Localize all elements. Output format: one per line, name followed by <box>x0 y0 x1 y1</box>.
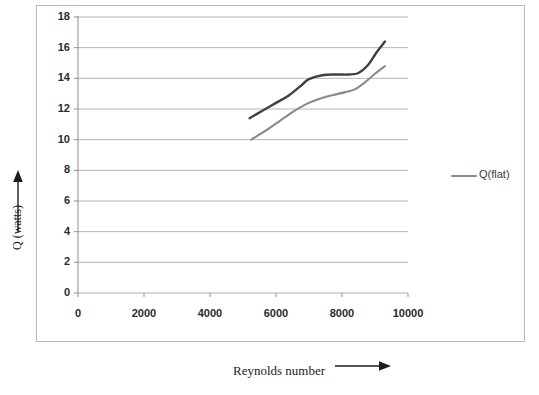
y-axis-tick-label: 18 <box>38 10 70 22</box>
y-axis-tick-label: 2 <box>38 255 70 267</box>
x-axis-tick-label: 4000 <box>180 307 240 319</box>
x-axis-tick-label: 0 <box>48 307 108 319</box>
x-axis-tick-label: 8000 <box>312 307 372 319</box>
y-tick-marks-group <box>74 17 78 293</box>
y-axis-tick-label: 10 <box>38 133 70 145</box>
y-axis-tick-label: 16 <box>38 41 70 53</box>
x-axis-title: Reynolds number <box>233 363 325 379</box>
chart-figure: 024681012141618 0200040006000800010000 Q… <box>0 0 539 395</box>
y-axis-title: Q (watts) <box>10 205 25 250</box>
y-axis-tick-label: 14 <box>38 71 70 83</box>
series-paths-group <box>250 42 385 140</box>
y-axis-tick-label: 6 <box>38 194 70 206</box>
y-axis-tick-label: 8 <box>38 163 70 175</box>
y-axis-tick-label: 4 <box>38 225 70 237</box>
x-axis-tick-label: 6000 <box>246 307 306 319</box>
plot-canvas <box>0 0 539 395</box>
x-axis-tick-label: 10000 <box>378 307 438 319</box>
x-tick-marks-group <box>78 293 408 297</box>
y-axis-tick-label: 0 <box>38 286 70 298</box>
y-axis-tick-label: 12 <box>38 102 70 114</box>
gridlines-group <box>78 17 408 293</box>
legend-entry-label: Q(flat) <box>479 168 510 180</box>
x-axis-tick-label: 2000 <box>114 307 174 319</box>
